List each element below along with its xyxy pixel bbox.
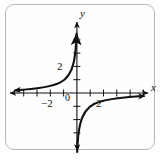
curve-right-path bbox=[77, 96, 140, 152]
origin-label: 0 bbox=[65, 93, 70, 103]
graph-figure: y x 0 −2 2 2 bbox=[0, 0, 164, 161]
x-tick-label-pos2: 2 bbox=[96, 98, 102, 109]
x-axis bbox=[10, 90, 148, 97]
curve-right-branch bbox=[77, 96, 145, 152]
curve-left-branch bbox=[14, 34, 77, 91]
curve-left-path bbox=[17, 34, 77, 91]
y-tick-label-pos2: 2 bbox=[57, 61, 63, 72]
curve-left-arrow bbox=[14, 90, 22, 91]
y-axis-label: y bbox=[80, 8, 85, 19]
x-tick-label-neg2: −2 bbox=[41, 98, 53, 109]
x-axis-label: x bbox=[151, 82, 156, 93]
graph-canvas bbox=[0, 0, 164, 161]
